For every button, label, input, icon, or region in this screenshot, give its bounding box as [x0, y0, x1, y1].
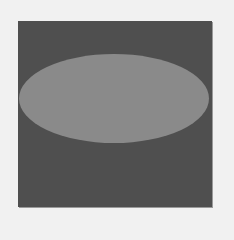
- dark-gray-square: [18, 21, 212, 207]
- light-gray-ellipse: [19, 54, 209, 143]
